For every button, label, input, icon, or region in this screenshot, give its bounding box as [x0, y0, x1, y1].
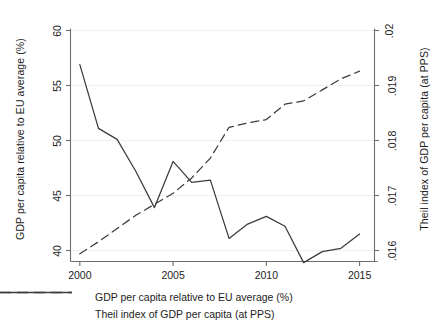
legend-solid-line-icon: [0, 288, 72, 297]
chart-legend: GDP per capita relative to EU average (%…: [0, 288, 440, 322]
legend-label: GDP per capita relative to EU average (%…: [95, 291, 293, 303]
legend-label: Theil index of GDP per capita (at PPS): [95, 308, 275, 320]
legend-item-theil-index: Theil index of GDP per capita (at PPS): [0, 305, 440, 322]
plot-area: [0, 0, 440, 329]
chart-container: GDP per capita relative to EU average (%…: [0, 0, 440, 329]
